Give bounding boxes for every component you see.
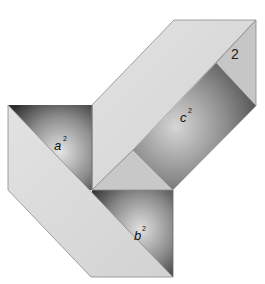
label-a-squared: a bbox=[54, 138, 61, 153]
pythagorean-diagram: a 2 c 2 b 2 2 bbox=[0, 0, 265, 284]
label-b-squared: b bbox=[134, 228, 141, 243]
label-a-exponent: 2 bbox=[63, 135, 67, 142]
label-b-exponent: 2 bbox=[142, 225, 146, 232]
label-c-squared: c bbox=[180, 110, 187, 125]
label-c-exponent: 2 bbox=[188, 107, 192, 114]
label-marker-2: 2 bbox=[231, 46, 239, 62]
